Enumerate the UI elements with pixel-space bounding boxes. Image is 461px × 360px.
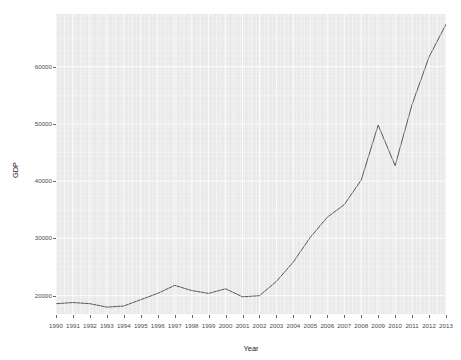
y-tick-mark [53,296,56,297]
x-tick-mark [446,315,447,318]
x-tick-label: 1998 [185,323,199,329]
x-axis-title: Year [244,345,259,352]
x-tick-label: 1999 [202,323,216,329]
y-tick-label: 50000 [24,121,52,127]
x-tick-label: 2012 [422,323,436,329]
x-tick-mark [276,315,277,318]
x-tick-label: 2011 [405,323,418,329]
x-tick-mark [361,315,362,318]
x-tick-mark [226,315,227,318]
x-tick-label: 1996 [151,323,165,329]
x-tick-label: 1997 [168,323,182,329]
x-tick-mark [175,315,176,318]
y-tick-label: 40000 [24,178,52,184]
y-tick-mark [53,67,56,68]
x-tick-label: 1990 [49,323,63,329]
x-tick-label: 2009 [371,323,385,329]
x-tick-mark [90,315,91,318]
x-tick-label: 2000 [219,323,233,329]
x-tick-label: 2008 [354,323,368,329]
y-tick-mark [53,181,56,182]
y-tick-label: 20000 [24,293,52,299]
x-tick-mark [158,315,159,318]
x-tick-mark [259,315,260,318]
axis-ticks: 2000030000400005000060000199019911992199… [0,0,461,360]
x-tick-mark [429,315,430,318]
x-tick-mark [209,315,210,318]
x-tick-label: 2005 [303,323,317,329]
x-tick-label: 1995 [134,323,148,329]
x-tick-label: 1992 [83,323,97,329]
x-tick-mark [192,315,193,318]
y-tick-label: 60000 [24,64,52,70]
x-tick-label: 1994 [117,323,131,329]
x-tick-mark [412,315,413,318]
y-tick-mark [53,238,56,239]
x-tick-mark [243,315,244,318]
x-tick-label: 2002 [253,323,267,329]
x-tick-label: 1991 [66,323,80,329]
x-tick-mark [107,315,108,318]
x-tick-mark [395,315,396,318]
y-axis-title: GDP [12,162,19,178]
x-tick-mark [73,315,74,318]
y-tick-mark [53,124,56,125]
x-tick-label: 1993 [100,323,114,329]
x-tick-mark [327,315,328,318]
x-tick-label: 2004 [287,323,301,329]
x-tick-mark [124,315,125,318]
x-tick-mark [378,315,379,318]
x-tick-mark [56,315,57,318]
x-tick-mark [141,315,142,318]
x-tick-label: 2003 [270,323,284,329]
x-tick-label: 2013 [439,323,453,329]
x-tick-mark [293,315,294,318]
x-tick-label: 2006 [320,323,334,329]
x-tick-mark [310,315,311,318]
x-tick-mark [344,315,345,318]
y-tick-label: 30000 [24,235,52,241]
x-tick-label: 2010 [388,323,402,329]
x-tick-label: 2007 [337,323,351,329]
x-tick-label: 2001 [236,323,250,329]
chart-screenshot: 2000030000400005000060000199019911992199… [0,0,461,360]
